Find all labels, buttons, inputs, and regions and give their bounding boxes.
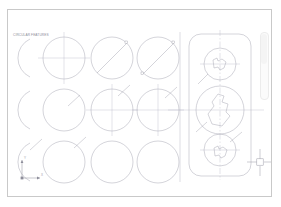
leader-bore-top[interactable] bbox=[198, 74, 208, 84]
circle-r3c3[interactable] bbox=[91, 141, 133, 183]
title-block-text: CIRCULAR FEATURES bbox=[13, 33, 49, 37]
leader-r3c1[interactable] bbox=[30, 139, 42, 150]
arc-r1c1[interactable] bbox=[18, 39, 30, 77]
leader-r2c4[interactable] bbox=[165, 87, 177, 98]
diameter-line-r1c4[interactable] bbox=[143, 43, 174, 74]
endpoint-marker2-r1c4[interactable] bbox=[141, 72, 143, 74]
arc-r2c1[interactable] bbox=[18, 91, 30, 129]
ucs-origin-box bbox=[21, 177, 24, 180]
ucs-x-label: X bbox=[41, 173, 43, 177]
cursor-pickbox bbox=[257, 159, 263, 165]
leader-bore-bottom[interactable] bbox=[230, 132, 242, 142]
arc-r3c1[interactable] bbox=[18, 143, 30, 181]
centerlines-r1c2 bbox=[38, 32, 90, 84]
leader-bore-middle[interactable] bbox=[196, 122, 207, 132]
vertical-scrollbar-thumb[interactable] bbox=[261, 34, 267, 64]
leader-r2c2[interactable] bbox=[68, 95, 80, 106]
ucs-axis-icon: Y X bbox=[21, 156, 43, 179]
key-profile-bottom[interactable] bbox=[214, 146, 227, 158]
assembly-plate[interactable] bbox=[168, 30, 264, 180]
leader-r3c2[interactable] bbox=[74, 137, 86, 148]
cad-application-window: Y X CIRCULAR FEATURES bbox=[0, 0, 281, 207]
diameter-line-r1c3[interactable] bbox=[97, 43, 127, 73]
endpoint-marker-r1c4[interactable] bbox=[172, 41, 174, 43]
drawing-canvas[interactable]: Y X bbox=[8, 10, 271, 196]
circle-r2c2[interactable] bbox=[43, 89, 85, 131]
crosshair-cursor bbox=[247, 149, 271, 176]
geometry-layer: Y X bbox=[18, 30, 271, 183]
ucs-x-arrow bbox=[37, 177, 40, 180]
centerlines-r2c3 bbox=[86, 84, 138, 136]
circle-r3c4[interactable] bbox=[137, 141, 179, 183]
endpoint-marker-r1c3[interactable] bbox=[125, 41, 127, 43]
circle-r3c2[interactable] bbox=[43, 141, 85, 183]
ucs-y-label: Y bbox=[24, 156, 26, 160]
ucs-y-arrow bbox=[21, 160, 24, 163]
drawing-svg: Y X bbox=[8, 10, 271, 196]
